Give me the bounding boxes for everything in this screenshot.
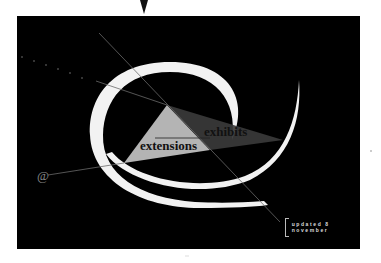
decorative-mark: [370, 150, 372, 152]
splash-graphic: extensions exhibits @ updated 8 november: [17, 16, 360, 249]
updated-note: updated 8 november: [285, 218, 360, 236]
dotted-line: [21, 56, 83, 79]
extensions-label[interactable]: extensions: [140, 138, 197, 154]
decorative-mark: [185, 255, 189, 257]
logo-artwork: [17, 16, 360, 249]
at-symbol-icon[interactable]: @: [37, 168, 49, 184]
updated-text: updated 8 november: [292, 221, 360, 233]
exhibits-label[interactable]: exhibits: [204, 124, 247, 140]
down-arrow-icon: [140, 0, 148, 14]
bracket-icon: [285, 218, 289, 237]
